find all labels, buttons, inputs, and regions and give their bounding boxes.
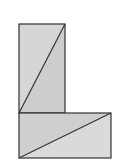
l-shape-diagram (0, 0, 116, 167)
vertical-rectangle (19, 24, 65, 113)
horizontal-rectangle (19, 113, 111, 158)
